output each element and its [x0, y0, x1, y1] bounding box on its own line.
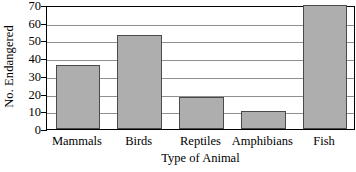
x-axis-tick-label-birds: Birds	[108, 133, 170, 150]
y-axis-title-text: No. Endangered	[2, 25, 17, 108]
x-axis-title: Type of Animal	[46, 150, 355, 166]
bars-layer	[47, 7, 354, 129]
bar-amphibians	[241, 111, 285, 129]
bar-fish	[303, 5, 347, 129]
bar-chart-figure: No. Endangered 010203040506070 MammalsBi…	[0, 0, 356, 172]
y-axis-title: No. Endangered	[0, 0, 18, 133]
x-axis-tick-label-amphibians: Amphibians	[231, 133, 293, 150]
bar-birds	[117, 35, 161, 129]
plot-area	[46, 6, 355, 130]
x-axis-tick-label-reptiles: Reptiles	[170, 133, 232, 150]
x-axis-tick-label-fish: Fish	[293, 133, 355, 150]
bar-reptiles	[179, 97, 223, 129]
x-axis-tick-label-mammals: Mammals	[46, 133, 108, 150]
bar-mammals	[56, 65, 100, 129]
y-axis-tick-mark	[41, 130, 47, 131]
